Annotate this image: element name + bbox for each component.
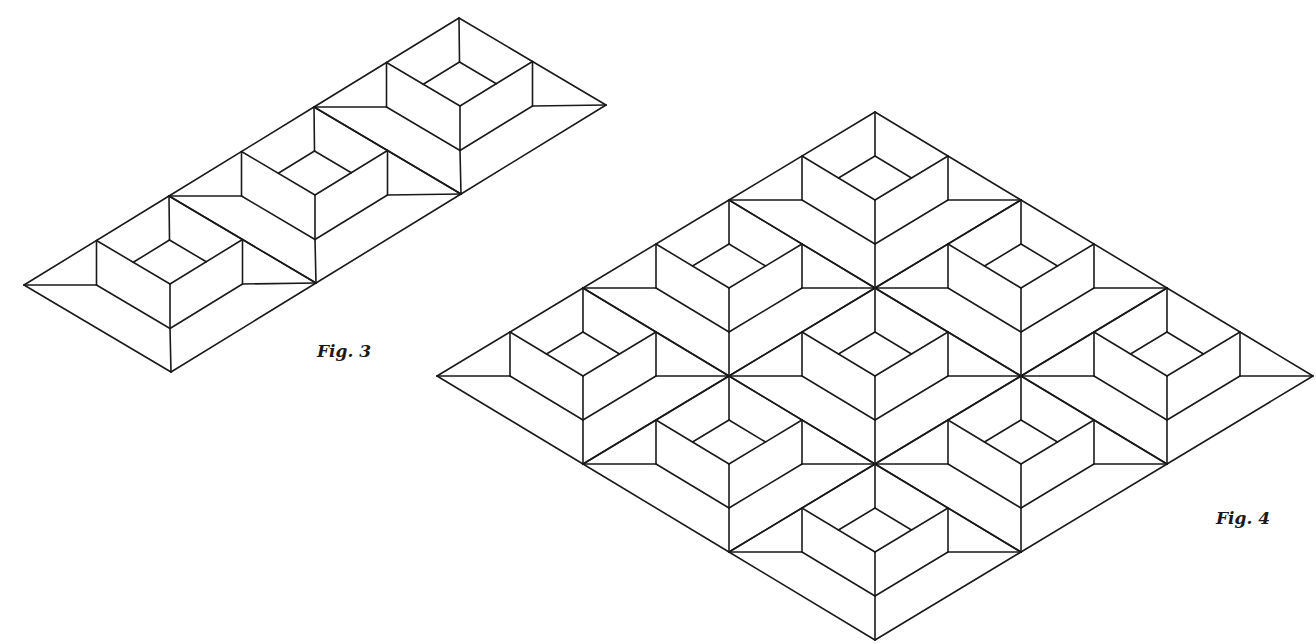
pattern-line xyxy=(875,552,1021,640)
pattern-line xyxy=(875,552,948,596)
pattern-line xyxy=(24,285,171,372)
pattern-line xyxy=(839,156,876,178)
pattern-line xyxy=(839,508,876,530)
pattern-line xyxy=(460,62,497,84)
pattern-line xyxy=(278,151,314,173)
pattern-line xyxy=(875,332,912,354)
pattern-line xyxy=(387,107,461,151)
pattern-line xyxy=(583,464,729,552)
pattern-line xyxy=(802,376,875,420)
figure-4-isometric-lattice xyxy=(437,112,1313,640)
pattern-line xyxy=(133,240,169,262)
pattern-line xyxy=(170,240,207,262)
pattern-line xyxy=(1167,376,1313,464)
pattern-line xyxy=(242,196,316,240)
pattern-line xyxy=(875,200,948,244)
pattern-line xyxy=(314,107,315,151)
pattern-line xyxy=(459,18,460,62)
pattern-line xyxy=(1021,464,1094,508)
pattern-line xyxy=(1021,244,1058,266)
pattern-line xyxy=(875,376,948,420)
pattern-line xyxy=(1021,288,1094,332)
pattern-line xyxy=(315,195,388,240)
pattern-line xyxy=(583,332,620,354)
pattern-line xyxy=(423,62,459,84)
pattern-line xyxy=(693,420,730,442)
pattern-line xyxy=(171,283,316,372)
pattern-line xyxy=(533,105,607,106)
pattern-line xyxy=(1167,332,1204,354)
pattern-line xyxy=(315,240,316,284)
pattern-line xyxy=(388,194,462,195)
pattern-line xyxy=(1167,376,1240,420)
figure-3-caption: Fig. 3 xyxy=(317,341,371,361)
pattern-line xyxy=(170,329,171,373)
pattern-line xyxy=(656,288,729,332)
pattern-line xyxy=(1094,376,1167,420)
pattern-line xyxy=(948,288,1021,332)
pattern-line xyxy=(802,552,875,596)
pattern-line xyxy=(243,283,317,284)
pattern-line xyxy=(948,464,1021,508)
figure-4-caption: Fig. 4 xyxy=(1216,508,1270,528)
pattern-line xyxy=(1131,332,1168,354)
pattern-line xyxy=(547,332,584,354)
pattern-line xyxy=(729,244,766,266)
pattern-line xyxy=(839,332,876,354)
pattern-line xyxy=(170,284,243,329)
pattern-line xyxy=(875,156,912,178)
pattern-line xyxy=(729,552,875,640)
pattern-line xyxy=(875,508,912,530)
pattern-line xyxy=(985,244,1022,266)
figures-canvas xyxy=(0,0,1316,644)
pattern-line xyxy=(693,244,730,266)
pattern-line xyxy=(461,105,606,194)
pattern-line xyxy=(656,464,729,508)
pattern-line xyxy=(315,151,352,173)
pattern-line xyxy=(583,376,656,420)
figure-3-isometric-strip xyxy=(24,18,606,372)
pattern-line xyxy=(985,420,1022,442)
pattern-line xyxy=(802,200,875,244)
pattern-line xyxy=(460,151,461,195)
pattern-line xyxy=(437,376,583,464)
pattern-line xyxy=(316,194,461,283)
pattern-line xyxy=(97,285,171,329)
pattern-line xyxy=(1021,420,1058,442)
pattern-line xyxy=(729,288,802,332)
pattern-line xyxy=(169,196,170,240)
pattern-line xyxy=(460,106,533,151)
pattern-line xyxy=(729,420,766,442)
pattern-line xyxy=(1021,464,1167,552)
pattern-line xyxy=(729,464,802,508)
pattern-line xyxy=(510,376,583,420)
